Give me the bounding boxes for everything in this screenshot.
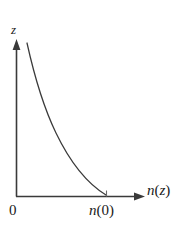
figure-container: z 0 n(0) n(z) (0, 0, 184, 232)
x-axis-label: n(z) (147, 183, 170, 198)
x-axis-tick-label-n0: n(0) (89, 203, 114, 218)
decay-curve (27, 43, 106, 195)
n0-variable-text: n (89, 202, 97, 218)
n0-paren-text: (0) (97, 202, 115, 218)
x-axis-arrowhead-icon (134, 193, 145, 201)
nz-function-text: n (147, 182, 155, 198)
y-axis-label: z (11, 23, 16, 36)
y-axis-label-text: z (11, 22, 16, 37)
nz-close-paren-text: ) (165, 182, 170, 198)
origin-label-text: 0 (9, 202, 17, 218)
y-axis-arrowhead-icon (13, 39, 21, 50)
origin-label: 0 (9, 203, 17, 218)
